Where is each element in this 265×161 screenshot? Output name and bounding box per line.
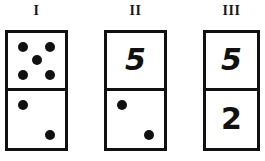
domino-column-1: I [5,0,68,161]
pip [18,42,28,52]
pip [144,130,154,140]
domino-3-bottom-numeral: 2 [221,104,242,134]
domino-2-top-half: 5 [107,33,164,91]
domino-2-top-numeral: 5 [125,45,146,75]
domino-1-bottom-half [8,91,65,149]
pip [45,130,55,140]
pip [45,70,55,80]
pip [32,55,42,65]
domino-label-3: III [203,3,260,19]
domino-tile-3[interactable]: 5 2 [203,30,260,151]
domino-tile-2[interactable]: 5 [104,30,167,151]
domino-column-3: III 5 2 [203,0,260,161]
domino-3-bottom-half: 2 [206,91,257,149]
domino-label-1: I [5,3,68,19]
domino-2-bottom-half [107,91,164,149]
domino-tile-1[interactable] [5,30,68,151]
domino-column-2: II 5 [104,0,167,161]
pip [18,100,28,110]
pip [45,42,55,52]
domino-3-top-half: 5 [206,33,257,91]
domino-3-top-numeral: 5 [221,45,242,75]
pip [117,100,127,110]
domino-figure: I II 5 [0,0,265,161]
domino-1-top-half [8,33,65,91]
pip [18,70,28,80]
domino-label-2: II [104,3,167,19]
